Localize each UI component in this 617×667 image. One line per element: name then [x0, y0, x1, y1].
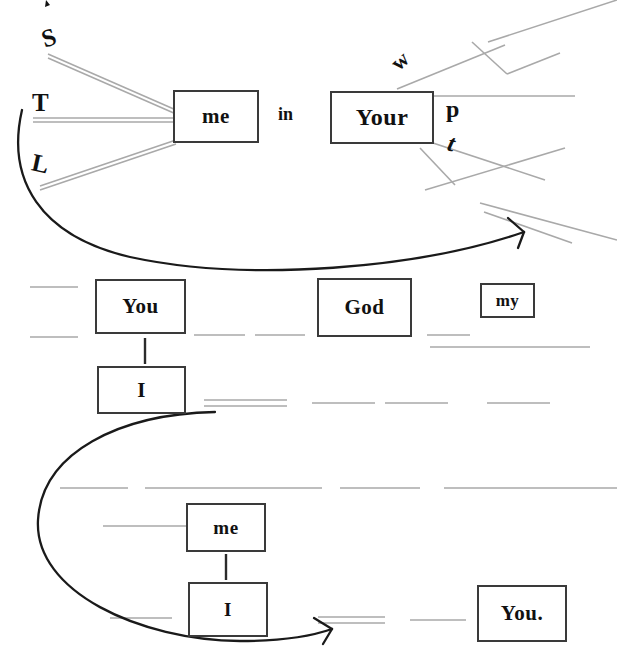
word-box-i-bottom[interactable]: I [188, 582, 268, 637]
word-box-label: You [122, 294, 159, 319]
free-word-p: p [446, 96, 459, 123]
word-box-label: You. [501, 601, 543, 626]
free-word-t: T [32, 89, 49, 117]
diagram-vector-layer [0, 0, 617, 667]
blank-rule-s-a [48, 54, 176, 110]
cropped-glyph-fragment [45, 0, 50, 7]
word-box-me-top[interactable]: me [173, 90, 259, 143]
word-box-label: Your [356, 104, 409, 131]
word-box-you[interactable]: You [95, 279, 186, 334]
word-box-label: I [224, 599, 232, 621]
sentence-diagram-canvas: me Your You God my I me I You. S T L in … [0, 0, 617, 667]
word-box-me-bottom[interactable]: me [186, 503, 266, 552]
word-box-god[interactable]: God [317, 278, 412, 337]
word-box-label: God [344, 295, 384, 320]
word-box-my[interactable]: my [480, 283, 535, 318]
blank-rule-w-tick2 [507, 53, 560, 74]
word-box-your[interactable]: Your [330, 91, 434, 144]
word-box-label: me [202, 104, 230, 129]
arrows-group [18, 110, 524, 644]
arrow-upper-curve [18, 110, 524, 270]
blank-rule-w-b [488, 0, 617, 42]
word-box-label: me [213, 517, 238, 539]
blank-rule-s-b [48, 58, 176, 114]
blank-rules-i-row [204, 400, 550, 406]
word-box-i-middle[interactable]: I [97, 366, 186, 414]
word-box-you-final[interactable]: You. [477, 585, 567, 642]
blank-rules-group [33, 0, 617, 243]
free-word-in: in [278, 104, 293, 125]
word-box-label: I [137, 378, 146, 403]
blank-rule-l-a [40, 140, 176, 186]
blank-rule-w-a [397, 45, 505, 89]
blank-rule-l-b [40, 144, 176, 190]
word-box-label: my [496, 291, 520, 311]
